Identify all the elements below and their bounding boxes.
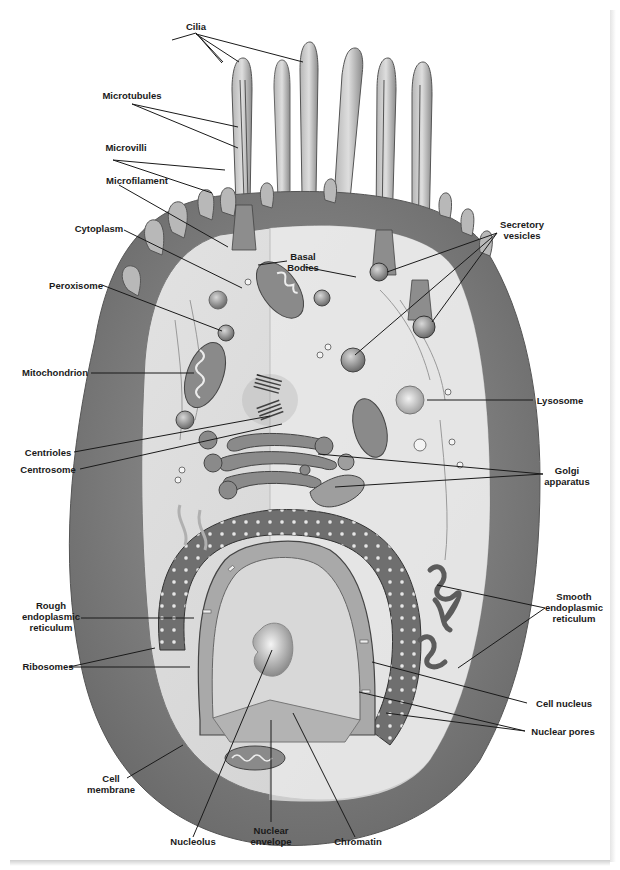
label-basal-bodies-1: Basal	[290, 251, 315, 262]
label-rough-er-1: Rough	[36, 600, 66, 611]
label-nuclear-envelope-2: envelope	[250, 836, 291, 847]
label-cell-membrane-2: membrane	[87, 784, 135, 795]
label-rough-er-2: endoplasmic	[22, 611, 80, 622]
label-cytoplasm: Cytoplasm	[75, 223, 124, 234]
label-cell-membrane-1: Cell	[102, 773, 119, 784]
label-cilia: Cilia	[186, 21, 207, 32]
label-golgi-1: Golgi	[555, 465, 579, 476]
vesicle	[209, 291, 227, 309]
label-secretory-vesicles-2: vesicles	[504, 230, 541, 241]
label-nucleolus: Nucleolus	[170, 836, 215, 847]
cell-diagram: Cilia Microtubules Microvilli Microfilam…	[0, 0, 620, 870]
secretory-vesicle	[341, 348, 365, 372]
label-centrioles: Centrioles	[25, 447, 71, 458]
label-golgi-2: apparatus	[544, 476, 589, 487]
nucleolus	[253, 623, 293, 676]
vesicle	[314, 290, 330, 306]
label-chromatin: Chromatin	[334, 836, 382, 847]
label-ribosomes: Ribosomes	[22, 661, 73, 672]
label-microfilament: Microfilament	[106, 175, 169, 186]
label-nuclear-envelope-1: Nuclear	[254, 825, 289, 836]
label-basal-bodies-2: Bodies	[287, 262, 319, 273]
label-microvilli: Microvilli	[105, 142, 146, 153]
label-smooth-er-2: endoplasmic	[545, 602, 603, 613]
label-centrosome: Centrosome	[20, 464, 75, 475]
label-smooth-er-3: reticulum	[553, 613, 596, 624]
vesicle	[176, 411, 194, 429]
centrosome	[242, 374, 298, 426]
label-rough-er-3: reticulum	[30, 622, 73, 633]
label-smooth-er-1: Smooth	[556, 591, 592, 602]
secretory-vesicle	[413, 316, 435, 338]
peroxisome	[218, 325, 234, 341]
secretory-vesicle	[370, 263, 388, 281]
lysosome	[396, 386, 424, 414]
label-peroxisome: Peroxisome	[49, 280, 103, 291]
label-cell-nucleus: Cell nucleus	[536, 698, 592, 709]
label-mitochondrion: Mitochondrion	[22, 367, 88, 378]
label-nuclear-pores: Nuclear pores	[531, 726, 594, 737]
label-secretory-vesicles-1: Secretory	[500, 219, 545, 230]
label-microtubules: Microtubules	[102, 90, 161, 101]
label-lysosome: Lysosome	[537, 395, 584, 406]
